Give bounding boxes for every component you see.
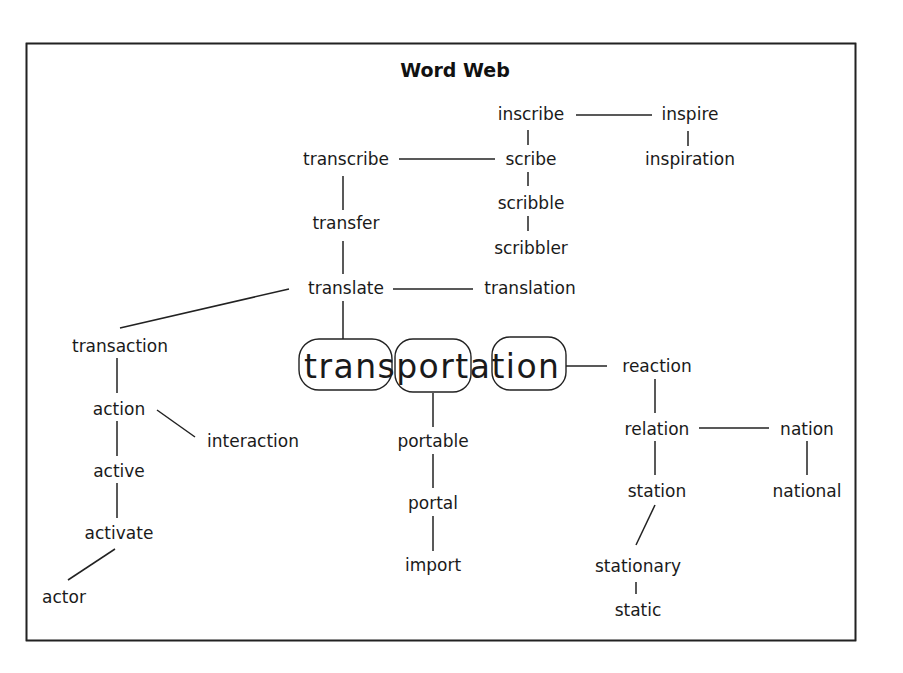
word-static: static: [615, 600, 662, 620]
link-station-stationary: [636, 505, 655, 545]
word-scribble: scribble: [498, 193, 565, 213]
word-transaction: transaction: [72, 336, 168, 356]
word-transcribe: transcribe: [303, 149, 389, 169]
word-inscribe: inscribe: [498, 104, 565, 124]
word-scribe: scribe: [505, 149, 556, 169]
word-station: station: [628, 481, 687, 501]
word-activate: activate: [85, 523, 154, 543]
word-nation: nation: [780, 419, 834, 439]
word-scribbler: scribbler: [494, 238, 568, 258]
word-translate: translate: [308, 278, 384, 298]
central-word: transportation: [299, 337, 566, 392]
word-action: action: [93, 399, 145, 419]
word-transfer: transfer: [312, 213, 379, 233]
word-import: import: [405, 555, 461, 575]
word-actor: actor: [42, 587, 86, 607]
diagram-title: Word Web: [400, 59, 510, 81]
word-interaction: interaction: [207, 431, 299, 451]
central-word-text: transportation: [304, 347, 562, 386]
word-inspiration: inspiration: [645, 149, 735, 169]
word-national: national: [773, 481, 842, 501]
link-activate-actor: [68, 549, 115, 580]
word-web-diagram: Word Web transportation: [0, 0, 903, 673]
link-action-interaction: [157, 410, 195, 437]
word-stationary: stationary: [595, 556, 681, 576]
word-reaction: reaction: [622, 356, 691, 376]
word-active: active: [93, 461, 145, 481]
word-portable: portable: [397, 431, 468, 451]
word-inspire: inspire: [662, 104, 719, 124]
link-translate-transaction: [120, 289, 289, 328]
word-translation: translation: [484, 278, 575, 298]
word-relation: relation: [625, 419, 690, 439]
word-portal: portal: [408, 493, 458, 513]
